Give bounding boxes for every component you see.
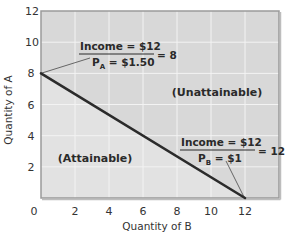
x-axis-title: Quantity of B (122, 220, 191, 232)
budget-line-chart: 2 4 6 8 10 12 0 2 4 6 8 10 12 Quantity o… (0, 0, 286, 236)
y-tick: 6 (28, 99, 35, 112)
x-tick: 2 (72, 205, 79, 218)
y-axis-ticks: 2 4 6 8 10 12 (25, 5, 39, 174)
x-tick: 8 (174, 205, 181, 218)
y-axis-title: Quantity of A (2, 75, 14, 145)
annotation-a-numerator: Income = $12 (80, 40, 161, 52)
annotation-b-result: = 12 (258, 145, 285, 157)
y-tick: 8 (28, 67, 35, 80)
x-tick: 10 (204, 205, 218, 218)
x-axis-ticks: 0 2 4 6 8 10 12 (31, 205, 253, 218)
attainable-label: (Attainable) (58, 152, 133, 165)
x-tick: 4 (106, 205, 113, 218)
y-tick: 2 (28, 161, 35, 174)
unattainable-label: (Unattainable) (172, 86, 262, 99)
x-tick: 0 (31, 205, 38, 218)
annotation-b-numerator: Income = $12 (181, 136, 262, 148)
x-tick: 6 (140, 205, 147, 218)
annotation-a-result: = 8 (157, 49, 177, 61)
y-tick: 10 (25, 36, 39, 49)
y-tick: 12 (25, 5, 39, 18)
x-tick: 12 (238, 205, 252, 218)
y-tick: 4 (28, 130, 35, 143)
